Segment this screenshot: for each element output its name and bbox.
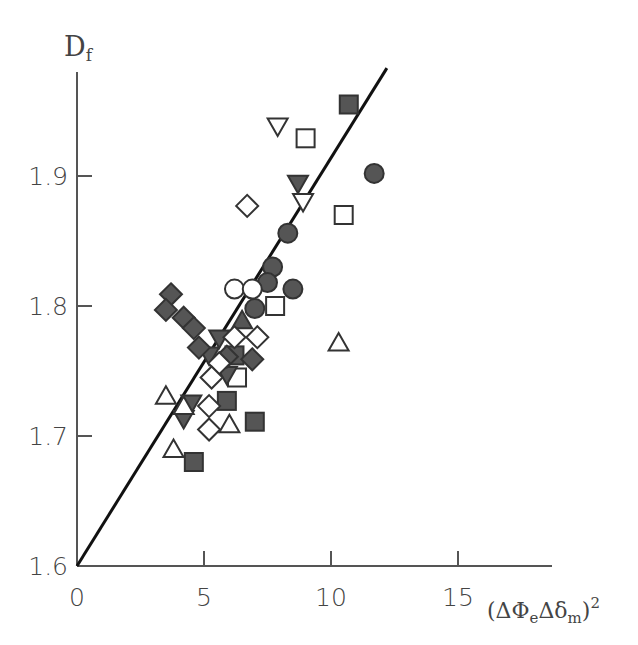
square-marker	[340, 96, 358, 114]
series-open-circle	[225, 280, 262, 299]
axes: 1.61.71.81.9051015	[28, 72, 552, 612]
regression-line	[77, 68, 387, 566]
diamond-marker	[198, 395, 220, 417]
triangle-up-marker	[329, 333, 349, 351]
circle-marker	[278, 224, 297, 243]
triangle-down-marker	[293, 194, 313, 212]
x-tick-label: 10	[315, 583, 347, 612]
triangle-down-marker	[288, 176, 308, 194]
x-tick-label: 5	[196, 583, 212, 612]
y-tick-label: 1.8	[28, 292, 68, 321]
diamond-marker	[198, 419, 220, 441]
square-marker	[246, 413, 264, 431]
circle-marker	[245, 299, 264, 318]
triangle-up-marker	[156, 386, 176, 404]
square-marker	[218, 392, 236, 410]
y-tick-label: 1.6	[28, 552, 68, 581]
x-tick-label: 15	[442, 583, 474, 612]
diamond-marker	[241, 348, 263, 370]
circle-marker	[365, 164, 384, 183]
square-marker	[266, 297, 284, 315]
fit-line	[77, 68, 387, 566]
x-tick-label: 0	[69, 583, 85, 612]
data-points	[155, 96, 384, 472]
circle-marker	[225, 280, 244, 299]
y-tick-label: 1.9	[28, 162, 68, 191]
triangle-down-marker	[268, 119, 288, 137]
diamond-marker	[236, 195, 258, 217]
square-marker	[297, 129, 315, 147]
triangle-up-marker	[219, 415, 239, 433]
circle-marker	[243, 280, 262, 299]
y-axis-label: Df	[64, 31, 94, 65]
triangle-up-marker	[164, 440, 184, 458]
circle-marker	[283, 280, 302, 299]
y-tick-label: 1.7	[28, 422, 68, 451]
square-marker	[185, 453, 203, 471]
square-marker	[335, 206, 353, 224]
scatter-chart: 1.61.71.81.9051015 Df (ΔΦeΔδm)2	[0, 0, 638, 645]
diamond-marker	[246, 326, 268, 348]
axis-labels: Df (ΔΦeΔδm)2	[64, 31, 600, 627]
x-axis-label: (ΔΦeΔδm)2	[487, 594, 600, 627]
